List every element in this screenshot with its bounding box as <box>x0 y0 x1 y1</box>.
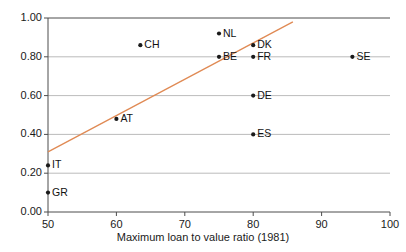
x-axis-title: Maximum loan to value ratio (1981) <box>0 231 406 244</box>
y-axis-tick-label: 0.20 <box>8 167 42 178</box>
y-axis-tick-label: 0.80 <box>8 51 42 62</box>
y-axis-tick-label: 0.60 <box>8 90 42 101</box>
data-point-label: ES <box>257 128 271 139</box>
data-point[interactable] <box>251 132 255 136</box>
y-axis-tick-label: 0.00 <box>8 206 42 217</box>
x-axis-tick-label: 50 <box>33 219 63 230</box>
data-point[interactable] <box>114 117 118 121</box>
data-point-label: AT <box>120 113 133 124</box>
data-point[interactable] <box>138 43 142 47</box>
scatter-chart: Maximum loan to value ratio (1981) 0.000… <box>0 0 406 252</box>
data-point[interactable] <box>46 163 50 167</box>
y-axis-tick-label: 0.40 <box>8 128 42 139</box>
data-point[interactable] <box>46 191 50 195</box>
x-axis-tick-label: 60 <box>101 219 131 230</box>
data-point[interactable] <box>217 55 221 59</box>
data-point[interactable] <box>251 94 255 98</box>
data-point[interactable] <box>217 31 221 35</box>
x-axis-tick-label: 90 <box>307 219 337 230</box>
data-point-label: GR <box>52 187 68 198</box>
data-point[interactable] <box>251 43 255 47</box>
trend-line <box>48 22 293 152</box>
data-point[interactable] <box>251 55 255 59</box>
x-axis-tick-label: 80 <box>238 219 268 230</box>
data-point-label: DE <box>257 90 272 101</box>
data-point-label: DK <box>257 39 272 50</box>
x-axis-tick-label: 70 <box>170 219 200 230</box>
data-point-label: BE <box>223 51 237 62</box>
data-point-label: FR <box>257 51 271 62</box>
data-point[interactable] <box>350 55 354 59</box>
y-axis-tick-label: 1.00 <box>8 12 42 23</box>
x-axis-tick-label: 100 <box>375 219 405 230</box>
data-point-label: IT <box>52 159 61 170</box>
data-point-label: NL <box>223 28 236 39</box>
plot-area <box>0 0 406 252</box>
data-point-label: SE <box>356 51 370 62</box>
data-point-label: CH <box>144 39 159 50</box>
